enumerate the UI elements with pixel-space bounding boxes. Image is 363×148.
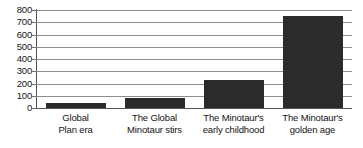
x-category-label-line: Plan era — [36, 124, 115, 136]
y-tick-label: 300 — [0, 67, 32, 77]
y-tick-label: 500 — [0, 42, 32, 52]
bar-slot — [283, 10, 343, 108]
x-category-label: The Minotaur'searly childhood — [194, 112, 273, 135]
bar[interactable] — [283, 16, 343, 108]
x-category-label-line: Global — [36, 112, 115, 124]
y-tick-mark — [32, 47, 36, 48]
x-category-label: The Minotaur'sgolden age — [273, 112, 352, 135]
y-tick-mark — [32, 96, 36, 97]
y-tick-mark — [32, 10, 36, 11]
bar-chart: 0100200300400500600700800 GlobalPlan era… — [0, 0, 363, 148]
y-tick-label: 100 — [0, 91, 32, 101]
y-tick-mark — [32, 84, 36, 85]
x-axis-category-labels: GlobalPlan eraThe GlobalMinotaur stirsTh… — [36, 112, 352, 146]
x-category-label-line: golden age — [273, 124, 352, 136]
x-category-label-line: early childhood — [194, 124, 273, 136]
bars-series — [36, 10, 352, 108]
y-tick-mark — [32, 108, 36, 109]
plot-area — [36, 10, 352, 108]
y-axis: 0100200300400500600700800 — [0, 0, 32, 148]
x-category-label: The GlobalMinotaur stirs — [115, 112, 194, 135]
x-category-label-line: Minotaur stirs — [115, 124, 194, 136]
bar-slot — [125, 10, 185, 108]
y-tick-mark — [32, 59, 36, 60]
y-tick-mark — [32, 35, 36, 36]
y-tick-label: 400 — [0, 54, 32, 64]
y-tick-mark — [32, 71, 36, 72]
bar-slot — [46, 10, 106, 108]
y-tick-mark — [32, 22, 36, 23]
x-category-label: GlobalPlan era — [36, 112, 115, 135]
y-tick-label: 700 — [0, 18, 32, 28]
bar[interactable] — [204, 80, 264, 108]
y-tick-label: 800 — [0, 5, 32, 15]
y-tick-label: 200 — [0, 79, 32, 89]
x-category-label-line: The Global — [115, 112, 194, 124]
bar-slot — [204, 10, 264, 108]
bar[interactable] — [46, 103, 106, 108]
x-category-label-line: The Minotaur's — [273, 112, 352, 124]
y-tick-label: 0 — [0, 103, 32, 113]
y-tick-label: 600 — [0, 30, 32, 40]
x-category-label-line: The Minotaur's — [194, 112, 273, 124]
gridline — [36, 108, 352, 109]
bar[interactable] — [125, 98, 185, 108]
